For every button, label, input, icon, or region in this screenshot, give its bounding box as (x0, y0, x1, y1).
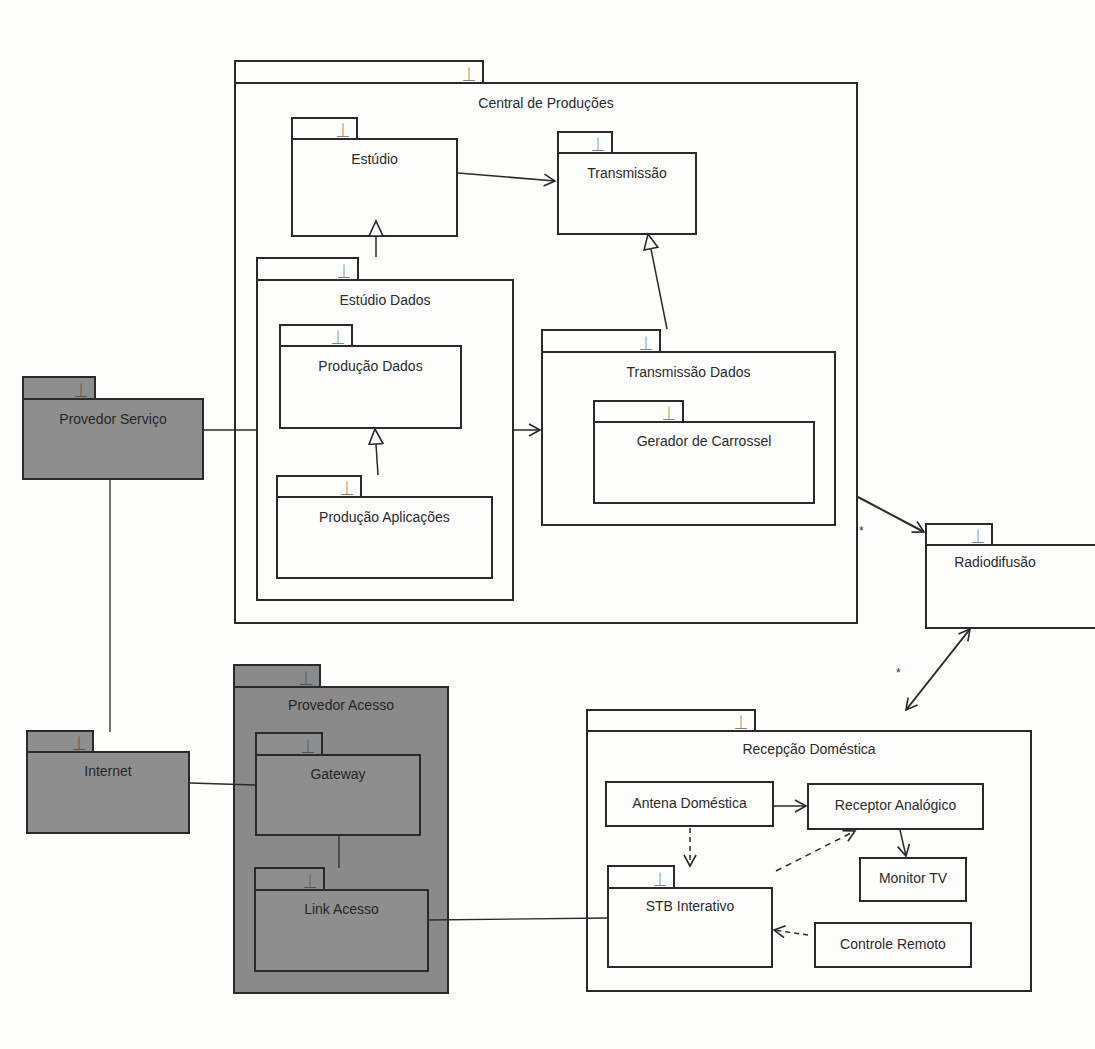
package-estudio[interactable]: ⏊ Estúdio (291, 117, 458, 237)
class-label: Controle Remoto (840, 936, 946, 952)
package-icon: ⏊ (302, 741, 314, 753)
package-tab: ⏊ (279, 324, 353, 347)
package-body: STB Interativo (607, 887, 773, 968)
package-label: Provedor Serviço (24, 411, 202, 427)
package-tab: ⏊ (586, 709, 756, 732)
package-tab: ⏊ (925, 523, 993, 546)
package-icon: ⏊ (332, 332, 344, 344)
package-label: Produção Aplicações (278, 509, 491, 525)
package-label: Recepção Doméstica (588, 741, 1030, 757)
package-label: Internet (28, 763, 188, 779)
package-icon: ⏊ (972, 531, 984, 543)
package-tab: ⏊ (255, 732, 323, 756)
package-body: Gerador de Carrossel (593, 421, 815, 504)
package-gateway[interactable]: ⏊ Gateway (255, 732, 421, 836)
package-label: Transmissão Dados (543, 364, 834, 380)
package-label: Gateway (257, 766, 419, 782)
package-body: Provedor Serviço (22, 398, 204, 480)
package-producao-dados[interactable]: ⏊ Produção Dados (279, 324, 462, 429)
package-tab: ⏊ (276, 475, 362, 498)
package-icon: ⏊ (338, 266, 350, 278)
package-label: Provedor Acesso (235, 697, 447, 713)
package-provedor-servico[interactable]: ⏊ Provedor Serviço (22, 376, 204, 480)
package-label: Gerador de Carrossel (595, 433, 813, 449)
multiplicity-radio-recepcao: * (896, 666, 901, 680)
edge-central-radiodifusao (858, 497, 924, 532)
package-icon: ⏊ (75, 385, 87, 397)
package-tab: ⏊ (26, 730, 94, 753)
package-body: Produção Dados (279, 345, 462, 429)
package-body: Gateway (255, 754, 421, 836)
package-internet[interactable]: ⏊ Internet (26, 730, 190, 834)
package-tab: ⏊ (256, 257, 359, 281)
edge-linkacesso-stb (429, 918, 607, 920)
package-label: Radiodifusão (929, 554, 1061, 570)
package-icon: ⏊ (654, 874, 666, 886)
package-stb-interativo[interactable]: ⏊ STB Interativo (607, 865, 773, 968)
package-icon: ⏊ (592, 139, 604, 151)
package-icon: ⏊ (73, 738, 85, 750)
package-body: Internet (26, 751, 190, 834)
package-label: Link Acesso (256, 901, 427, 917)
class-antena-domestica[interactable]: Antena Doméstica (605, 781, 774, 827)
package-producao-aplicacoes[interactable]: ⏊ Produção Aplicações (276, 475, 493, 579)
package-label: Transmissão (559, 165, 695, 181)
edge-radiodifusao-recepcao (906, 629, 970, 710)
class-label: Antena Doméstica (632, 795, 746, 811)
package-label: STB Interativo (609, 898, 771, 914)
package-icon: ⏊ (341, 483, 353, 495)
package-label: Estúdio Dados (258, 292, 512, 308)
package-tab: ⏊ (541, 329, 661, 353)
package-icon: ⏊ (337, 125, 349, 137)
package-label: Central de Produções (236, 95, 856, 111)
package-label: Produção Dados (281, 358, 460, 374)
package-icon: ⏊ (640, 338, 652, 350)
package-label: Estúdio (293, 151, 456, 167)
package-tab: ⏊ (234, 60, 484, 84)
multiplicity-central-radio: * (859, 524, 864, 538)
package-tab: ⏊ (22, 376, 96, 400)
class-monitor-tv[interactable]: Monitor TV (859, 857, 967, 902)
package-tab: ⏊ (593, 400, 684, 423)
package-body: Link Acesso (254, 889, 429, 972)
package-tab: ⏊ (607, 865, 675, 889)
package-tab: ⏊ (254, 867, 325, 891)
class-label: Monitor TV (879, 870, 947, 886)
package-gerador-carrossel[interactable]: ⏊ Gerador de Carrossel (593, 400, 815, 504)
package-tab: ⏊ (291, 117, 358, 140)
package-body: Estúdio (291, 138, 458, 237)
package-icon: ⏊ (304, 876, 316, 888)
package-body: Produção Aplicações (276, 496, 493, 579)
class-receptor-analogico[interactable]: Receptor Analógico (807, 783, 984, 830)
package-icon: ⏊ (663, 408, 675, 420)
class-label: Receptor Analógico (835, 797, 956, 813)
package-radiodifusao[interactable]: ⏊ Radiodifusão (925, 523, 1095, 629)
package-icon: ⏊ (300, 673, 312, 685)
package-tab: ⏊ (557, 131, 613, 154)
package-icon: ⏊ (735, 717, 747, 729)
package-tab: ⏊ (233, 664, 321, 688)
package-link-acesso[interactable]: ⏊ Link Acesso (254, 867, 429, 972)
package-body: Radiodifusão (925, 544, 1095, 629)
package-icon: ⏊ (463, 69, 475, 81)
package-transmissao[interactable]: ⏊ Transmissão (557, 131, 697, 235)
class-controle-remoto[interactable]: Controle Remoto (814, 922, 972, 968)
package-body: Transmissão (557, 152, 697, 235)
